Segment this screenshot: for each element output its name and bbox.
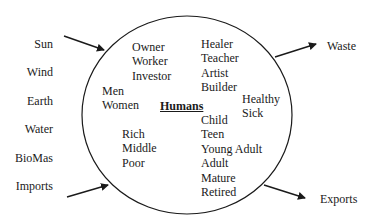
input-water: Water xyxy=(10,122,53,136)
group-gender: Men Women xyxy=(102,84,139,113)
role-investor: Investor xyxy=(132,69,171,83)
gender-women: Women xyxy=(102,98,139,112)
wealth-rich: Rich xyxy=(122,127,157,141)
age-teen: Teen xyxy=(201,127,262,141)
occupation-healer: Healer xyxy=(201,37,239,51)
center-label-humans: Humans xyxy=(160,99,203,113)
health-healthy: Healthy xyxy=(242,92,280,106)
occupation-artist: Artist xyxy=(201,66,239,80)
age-young-adult: Young Adult xyxy=(201,142,262,156)
occupation-teacher: Teacher xyxy=(201,51,239,65)
gender-men: Men xyxy=(102,84,139,98)
age-mature: Mature xyxy=(201,171,262,185)
input-biomas: BioMas xyxy=(5,151,53,165)
wealth-middle: Middle xyxy=(122,141,157,155)
arrow-exports-out xyxy=(264,185,305,198)
wealth-poor: Poor xyxy=(122,156,157,170)
age-retired: Retired xyxy=(201,185,262,199)
output-exports: Exports xyxy=(320,192,357,206)
arrow-sun-in xyxy=(64,36,104,50)
group-roles: Owner Worker Investor xyxy=(132,40,171,83)
input-wind: Wind xyxy=(10,65,53,79)
input-imports: Imports xyxy=(5,179,53,193)
humans-system-diagram: Sun Wind Earth Water BioMas Imports Wast… xyxy=(0,0,373,221)
input-earth: Earth xyxy=(10,94,53,108)
arrow-imports-in xyxy=(67,185,108,197)
occupation-builder: Builder xyxy=(201,80,239,94)
input-sun: Sun xyxy=(10,37,53,51)
output-waste: Waste xyxy=(327,39,356,53)
age-child: Child xyxy=(201,113,262,127)
group-wealth: Rich Middle Poor xyxy=(122,127,157,170)
role-worker: Worker xyxy=(132,54,171,68)
group-occupations: Healer Teacher Artist Builder xyxy=(201,37,239,95)
age-adult: Adult xyxy=(201,156,262,170)
arrow-waste-out xyxy=(275,44,316,57)
role-owner: Owner xyxy=(132,40,171,54)
group-age: Child Teen Young Adult Adult Mature Reti… xyxy=(201,113,262,199)
